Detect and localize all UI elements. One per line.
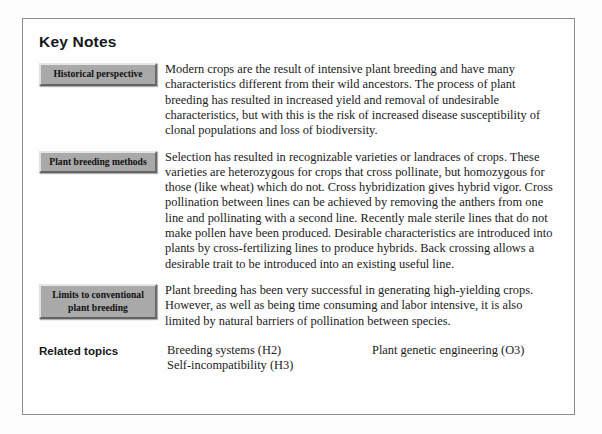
related-topic-link[interactable]: Plant genetic engineering (O3) — [372, 343, 560, 358]
related-topic-link[interactable]: Breeding systems (H2) — [167, 343, 372, 358]
note-label-plant-breeding-methods: Plant breeding methods — [39, 151, 157, 174]
related-topics-column-two: Plant genetic engineering (O3) — [372, 343, 560, 374]
related-topics-label: Related topics — [39, 343, 167, 357]
related-topic-link[interactable]: Self-incompatibility (H3) — [167, 358, 372, 373]
key-notes-content: Key Notes Historical perspective Modern … — [23, 19, 574, 414]
note-body-cell: Plant breeding has been very successful … — [165, 283, 560, 329]
page-title: Key Notes — [39, 33, 560, 50]
key-notes-frame: Key Notes Historical perspective Modern … — [22, 18, 575, 415]
related-topics-section: Related topics Breeding systems (H2) Sel… — [37, 343, 560, 374]
note-row: Plant breeding methods Selection has res… — [37, 150, 560, 272]
related-topics-column-one: Breeding systems (H2) Self-incompatibili… — [167, 343, 372, 374]
related-topics-columns: Breeding systems (H2) Self-incompatibili… — [167, 343, 560, 374]
note-label-historical-perspective: Historical perspective — [39, 63, 157, 86]
note-label-cell: Historical perspective — [37, 62, 165, 86]
note-row: Limits to conventional plant breeding Pl… — [37, 283, 560, 329]
note-row: Historical perspective Modern crops are … — [37, 62, 560, 138]
note-label-limits-to-conventional-plant-breeding: Limits to conventional plant breeding — [39, 284, 157, 320]
note-body-plant-breeding-methods: Selection has resulted in recognizable v… — [165, 150, 554, 272]
note-body-cell: Modern crops are the result of intensive… — [165, 62, 560, 138]
note-label-cell: Plant breeding methods — [37, 150, 165, 174]
note-body-cell: Selection has resulted in recognizable v… — [165, 150, 560, 272]
note-body-limits-to-conventional-plant-breeding: Plant breeding has been very successful … — [165, 283, 554, 329]
note-label-cell: Limits to conventional plant breeding — [37, 283, 165, 320]
page-background: Key Notes Historical perspective Modern … — [0, 0, 602, 434]
note-body-historical-perspective: Modern crops are the result of intensive… — [165, 62, 554, 138]
